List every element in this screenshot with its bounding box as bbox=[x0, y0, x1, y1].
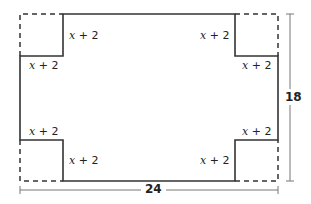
cutout-top-left bbox=[20, 14, 63, 56]
label-top-right-vertical: x + 2 bbox=[200, 30, 229, 41]
height-label: 18 bbox=[284, 89, 303, 105]
label-rest: + 2 bbox=[35, 59, 58, 72]
label-top-right-horizontal: x + 2 bbox=[242, 60, 271, 71]
cutout-top-right bbox=[235, 14, 278, 56]
label-bottom-right-horizontal: x + 2 bbox=[242, 126, 271, 137]
cutout-bottom-right bbox=[235, 140, 278, 181]
label-rest: + 2 bbox=[248, 125, 271, 138]
dashed-corner-cutouts bbox=[20, 14, 278, 181]
label-bottom-left-vertical: x + 2 bbox=[69, 155, 98, 166]
label-rest: + 2 bbox=[206, 29, 229, 42]
label-rest: + 2 bbox=[248, 59, 271, 72]
label-bottom-right-vertical: x + 2 bbox=[200, 155, 229, 166]
label-rest: + 2 bbox=[35, 125, 58, 138]
label-top-left-vertical: x + 2 bbox=[69, 30, 98, 41]
label-rest: + 2 bbox=[75, 154, 98, 167]
cutout-rectangle-diagram bbox=[0, 0, 311, 204]
cross-shaped-net-outline bbox=[20, 14, 278, 181]
label-rest: + 2 bbox=[206, 154, 229, 167]
label-bottom-left-horizontal: x + 2 bbox=[29, 126, 58, 137]
label-rest: + 2 bbox=[75, 29, 98, 42]
cutout-bottom-left bbox=[20, 140, 63, 181]
label-top-left-horizontal: x + 2 bbox=[29, 60, 58, 71]
width-label: 24 bbox=[141, 183, 166, 195]
